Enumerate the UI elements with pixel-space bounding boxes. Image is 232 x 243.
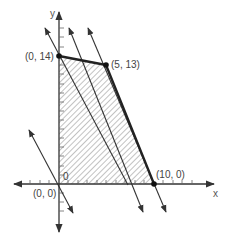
feasible-region-diagram xyxy=(0,0,232,243)
vertex-5-13 xyxy=(103,62,109,68)
vertex-label-10-0: (10, 0) xyxy=(156,170,185,180)
vertex-0-14 xyxy=(56,53,62,59)
vertex-label-5-13: (5, 13) xyxy=(111,60,140,70)
x-axis-label: x xyxy=(213,189,218,199)
y-axis-label: y xyxy=(50,9,55,19)
origin-tick-label: 0 xyxy=(63,172,69,182)
vertex-label-0-14: (0, 14) xyxy=(25,52,54,62)
vertex-label-0-0: (0, 0) xyxy=(33,189,56,199)
vertex-10-0 xyxy=(151,181,157,187)
